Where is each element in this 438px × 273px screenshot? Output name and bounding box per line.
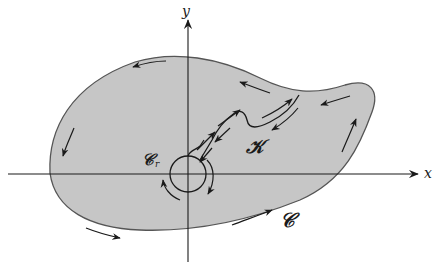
region-c [50,56,375,230]
contour-diagram [0,0,438,273]
label-cr: 𝒞r [142,152,159,169]
y-axis-label: y [182,4,190,18]
label-cr-main: 𝒞 [142,150,154,169]
label-k: 𝒦 [246,137,264,156]
label-c-outer: 𝒞 [280,210,295,230]
c-arrow-bottom-left [86,228,120,238]
x-axis-label: x [424,166,432,180]
label-cr-sub: r [155,159,159,169]
